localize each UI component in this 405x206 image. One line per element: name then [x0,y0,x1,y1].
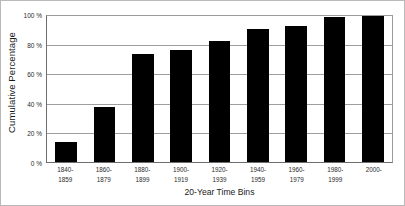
bar [170,50,191,162]
x-axis-tick-label-line1: 1880- [134,166,150,173]
y-axis-title-text: Cumulative Percentage [6,32,17,133]
x-axis-tick-label: 1980-1999 [316,165,355,189]
x-axis-tick-label-line2: 1959 [239,175,278,185]
x-axis-tick-label-line2: 1879 [85,175,124,185]
y-axis-tick-label: 0 % [31,160,42,167]
bar-slot [239,16,277,162]
x-axis-tick-label-line1: 1840- [57,166,73,173]
bar [324,17,345,162]
bar [209,41,230,162]
x-axis-tick-label: 1840-1859 [46,165,85,189]
x-axis-tick-label-line1: 1960- [289,166,305,173]
y-axis-tick-label: 80 % [27,41,42,48]
x-axis-tick-label: 1920-1939 [200,165,239,189]
x-axis-tick-label: 1960-1979 [277,165,316,189]
x-axis-tick-label-line2: 1859 [46,175,85,185]
x-axis-tick-label-line1: 1860- [96,166,112,173]
bar-slot [85,16,123,162]
bar-slot [162,16,200,162]
bar [94,107,115,162]
x-axis-tick-label-line1: 2000- [366,166,382,173]
bar [285,26,306,162]
x-axis-tick-label: 1860-1879 [85,165,124,189]
bar-slot [315,16,353,162]
bar-slot [354,16,392,162]
x-axis-tick-label-line1: 1940- [250,166,266,173]
x-axis-tick-label-line2: 1999 [316,175,355,185]
x-axis-tick-label: 1940-1959 [239,165,278,189]
bar [55,142,76,162]
y-axis-tick-labels: 0 %20 %40 %60 %80 %100 % [18,15,44,163]
bar [362,16,383,162]
y-axis-title: Cumulative Percentage [3,1,19,163]
x-axis-tick-label: 1880-1899 [123,165,162,189]
bar-slot [277,16,315,162]
x-axis-tick-label: 1900-1919 [162,165,201,189]
x-axis-tick-label-line1: 1920- [211,166,227,173]
x-axis-tick-label-line2: 1979 [277,175,316,185]
x-axis-tick-label-line2: 1939 [200,175,239,185]
x-axis-title: 20-Year Time Bins [46,187,393,197]
y-axis-tick-label: 100 % [24,12,42,19]
chart-figure: Cumulative Percentage 0 %20 %40 %60 %80 … [0,0,405,206]
y-axis-tick-label: 20 % [27,130,42,137]
x-axis-tick-label-line2: 1899 [123,175,162,185]
x-axis-tick-label-line2 [355,175,394,185]
bar-slot [47,16,85,162]
plot-area [46,15,393,163]
x-axis-tick-label-line1: 1900- [173,166,189,173]
x-axis-tick-label-line2: 1919 [162,175,201,185]
y-axis-tick-label: 40 % [27,100,42,107]
bar-series [47,16,392,162]
bar-slot [124,16,162,162]
x-axis-tick-label: 2000- [355,165,394,189]
bar-slot [200,16,238,162]
bar [132,54,153,162]
bar [247,29,268,162]
x-axis-tick-label-line1: 1980- [327,166,343,173]
y-axis-tick-label: 60 % [27,71,42,78]
x-axis-tick-labels: 1840-18591860-18791880-18991900-19191920… [46,165,393,189]
